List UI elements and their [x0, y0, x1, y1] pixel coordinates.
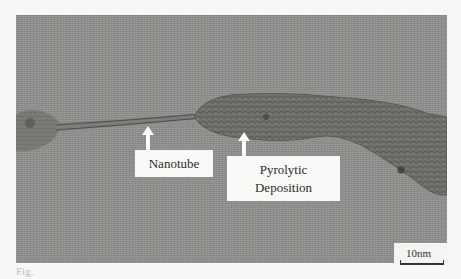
specimen-drawing [16, 15, 447, 263]
pyrolytic-label-line2: Deposition [227, 179, 340, 197]
scale-bar-box: 10nm [394, 243, 447, 266]
tem-micrograph [16, 15, 447, 263]
pyrolytic-arrow-shaft [242, 140, 246, 156]
nanotube-label-text: Nanotube [149, 156, 200, 171]
pyrolytic-label-line1: Pyrolytic [227, 161, 340, 179]
scale-bar-line [400, 263, 444, 265]
pyrolytic-deposition-label: Pyrolytic Deposition [227, 156, 340, 201]
scale-bar-label: 10nm [406, 247, 431, 259]
figure-caption: Fig. [16, 265, 33, 277]
nanotube-arrow-shaft [146, 134, 150, 150]
nanotube-label: Nanotube [135, 150, 213, 177]
